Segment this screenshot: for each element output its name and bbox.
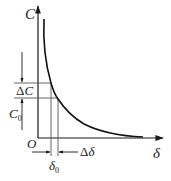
c-delta-curve [44,19,143,137]
y-axis-label: C [25,6,36,22]
delta-c-label: ΔC [16,83,33,98]
capacitance-gap-diagram: C δ O ΔC C0 δ0 Δδ [0,0,171,181]
c0-label: C0 [9,106,22,123]
x-axis-label: δ [153,145,161,161]
origin-label: O [27,136,37,151]
delta0-label: δ0 [49,158,59,175]
delta-delta-label: Δδ [80,144,95,159]
